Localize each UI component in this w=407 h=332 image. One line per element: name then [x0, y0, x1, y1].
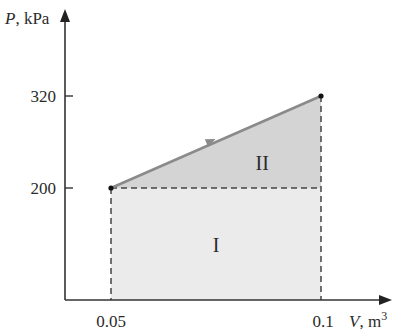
state-point-1 — [108, 185, 113, 190]
region-i-label: I — [213, 234, 220, 256]
region-ii-label: II — [256, 152, 269, 174]
x-axis-unit-exponent: 3 — [381, 309, 387, 323]
x-axis-unit: m — [368, 312, 381, 331]
x-axis-arrow-icon — [379, 295, 392, 305]
y-axis-unit: kPa — [24, 9, 50, 28]
x-axis-title: V, m3 — [349, 309, 387, 331]
y-tick-label-200: 200 — [31, 179, 57, 198]
pv-diagram: 320 200 0.05 0.1 P, kPa V, m3 I II — [0, 0, 407, 332]
y-axis-symbol: P — [4, 9, 15, 28]
state-point-2 — [318, 93, 323, 98]
y-axis-arrow-icon — [60, 9, 70, 22]
x-tick-label-0-1: 0.1 — [312, 312, 333, 331]
x-tick-label-0-05: 0.05 — [96, 312, 126, 331]
y-tick-label-320: 320 — [31, 87, 57, 106]
y-axis-title: P, kPa — [4, 9, 50, 28]
